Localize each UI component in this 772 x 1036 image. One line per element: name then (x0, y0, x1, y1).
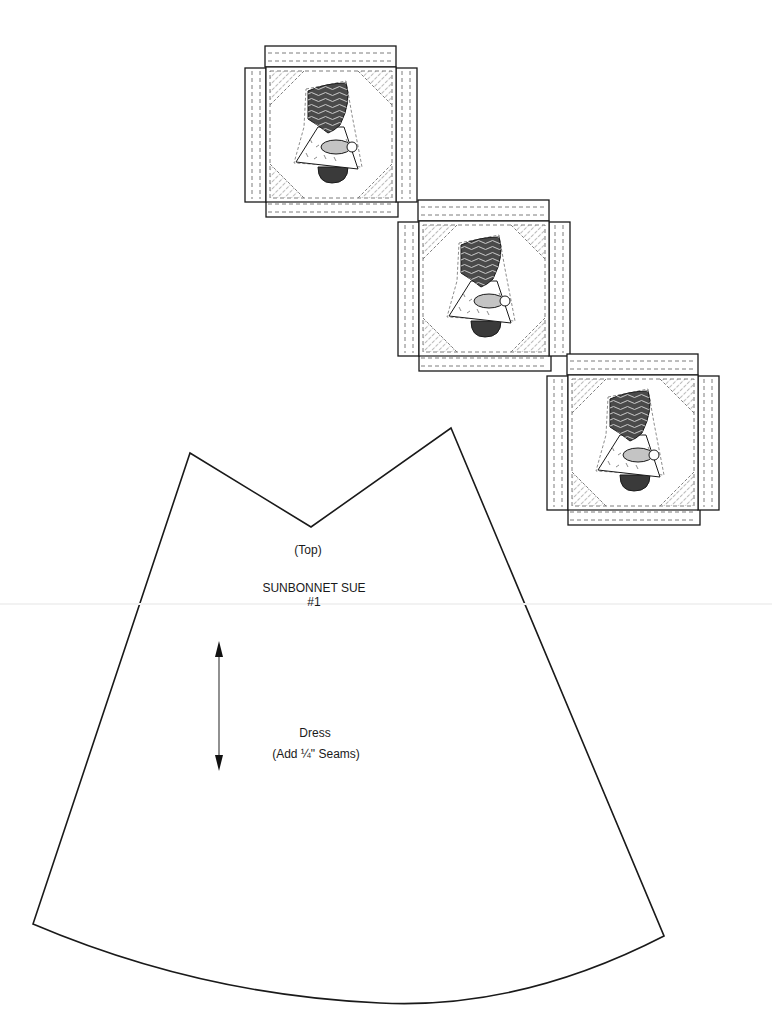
pattern-page (0, 0, 772, 1036)
pattern-title: SUNBONNET SUE (262, 581, 365, 595)
piece-name-label: Dress (299, 726, 330, 740)
scan-artifact (0, 603, 772, 605)
top-label: (Top) (294, 543, 321, 557)
grainline-arrow-icon (215, 641, 223, 771)
seam-allowance-note: (Add ¼" Seams) (272, 747, 360, 761)
quilt-block-2 (398, 200, 570, 371)
quilt-block-1 (245, 46, 417, 217)
quilt-block-3 (547, 354, 719, 525)
pattern-number: #1 (307, 595, 320, 609)
